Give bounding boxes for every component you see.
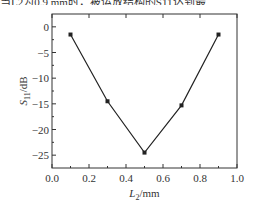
y-tick-label: −15 [32,98,50,110]
s11-vs-l2-line-chart: 0.00.20.40.60.81.00−5−10−15−20−25L2/mmS1… [0,0,255,211]
data-line [71,35,219,153]
data-point-marker [106,99,110,103]
x-tick-label: 0.4 [119,172,133,184]
y-axis-label: S11/dB [17,76,32,105]
x-tick-label: 0.2 [82,172,96,184]
x-tick-label: 0.0 [45,172,59,184]
y-tick-label: −20 [32,124,50,136]
plot-frame [52,14,237,168]
x-axis-label: L2/mm [128,187,160,202]
y-tick-label: −10 [32,72,50,84]
y-tick-label: −25 [32,149,50,161]
y-tick-label: 0 [44,21,50,33]
data-point-marker [180,103,184,107]
x-tick-label: 1.0 [230,172,244,184]
data-point-marker [217,33,221,37]
x-tick-label: 0.6 [156,172,170,184]
y-tick-label: −5 [37,47,49,59]
data-point-marker [69,33,73,37]
data-point-marker [143,151,147,155]
x-tick-label: 0.8 [193,172,207,184]
